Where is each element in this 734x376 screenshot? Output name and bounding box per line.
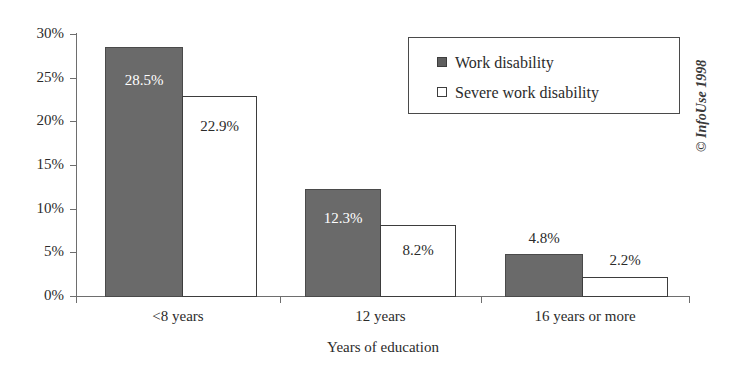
copyright-credit: © InfoUse 1998 [695,60,709,152]
y-tick-label-5: 5% [44,244,64,259]
x-category-label-1: 12 years [280,308,481,324]
chart-legend: Work disability Severe work disability [408,37,680,114]
bar-value-work-disability-2: 4.8% [505,231,583,246]
y-tick-label-15: 15% [37,157,65,172]
y-tick-label-20: 20% [37,113,65,128]
y-tick-label-30: 30% [37,26,65,41]
x-axis-title: Years of education [76,339,690,355]
legend-item-severe-work-disability: Severe work disability [437,77,679,107]
y-tick-label-25: 25% [37,70,65,85]
x-category-label-2: 16 years or more [481,308,689,324]
bar-severe-work-disability-1 [380,225,456,297]
y-tick-label-10: 10% [37,201,65,216]
legend-swatch-solid-icon [437,57,447,67]
bar-value-severe-work-disability-0: 22.9% [182,119,257,134]
legend-item-work-disability: Work disability [437,47,679,77]
x-category-label-0: <8 years [76,308,280,324]
bar-work-disability-2 [505,254,583,297]
y-tick-mark-5 [70,252,76,253]
bar-value-work-disability-1: 12.3% [305,211,381,226]
x-tick-end [689,296,690,303]
y-tick-mark-15 [70,165,76,166]
y-tick-label-0: 0% [44,288,64,303]
y-tick-mark-10 [70,209,76,210]
bar-work-disability-1 [305,189,381,297]
bar-chart: 30% 25% 20% 15% 10% 5% 0% 28.5% 22.9% <8… [0,0,734,376]
x-tick-2 [481,296,482,303]
legend-label-work-disability: Work disability [455,54,554,71]
bar-value-severe-work-disability-2: 2.2% [582,253,668,268]
x-tick-1 [280,296,281,303]
legend-label-severe-work-disability: Severe work disability [455,84,599,101]
y-axis-line [76,33,77,297]
legend-swatch-hollow-icon [437,87,447,97]
x-tick-start [76,296,77,303]
y-tick-mark-25 [70,78,76,79]
bar-value-work-disability-0: 28.5% [105,73,183,88]
y-tick-mark-30 [70,34,76,35]
y-tick-mark-20 [70,121,76,122]
bar-severe-work-disability-2 [582,277,668,297]
bar-value-severe-work-disability-1: 8.2% [380,243,456,258]
